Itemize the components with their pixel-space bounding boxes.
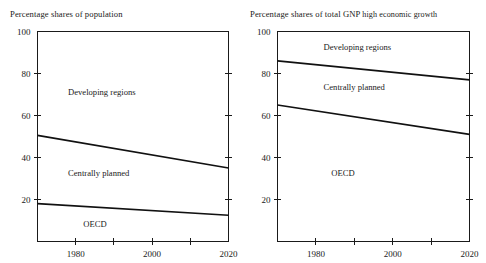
svg-text:60: 60: [22, 111, 32, 121]
svg-text:20: 20: [22, 195, 32, 205]
chart-svg-population: 20406080100198020002020Developing region…: [0, 0, 243, 263]
svg-text:40: 40: [22, 153, 32, 163]
svg-text:60: 60: [262, 111, 272, 121]
svg-text:OECD: OECD: [83, 219, 106, 229]
svg-text:40: 40: [262, 153, 272, 163]
svg-text:100: 100: [17, 27, 31, 37]
figure-container: Percentage shares of population 20406080…: [0, 0, 486, 263]
svg-text:2020: 2020: [461, 249, 480, 259]
svg-text:Centrally planned: Centrally planned: [68, 168, 130, 178]
svg-text:Developing regions: Developing regions: [324, 42, 392, 52]
svg-text:2000: 2000: [384, 249, 403, 259]
svg-text:100: 100: [257, 27, 271, 37]
svg-text:1980: 1980: [307, 249, 326, 259]
svg-text:Centrally planned: Centrally planned: [324, 82, 386, 92]
svg-text:OECD: OECD: [331, 168, 354, 178]
svg-text:2000: 2000: [143, 249, 162, 259]
chart-panel-gnp: Percentage shares of total GNP high econ…: [243, 0, 486, 263]
chart-svg-gnp: 20406080100198020002020Developing region…: [243, 0, 486, 263]
svg-text:1980: 1980: [67, 249, 86, 259]
svg-text:20: 20: [262, 195, 272, 205]
svg-text:80: 80: [22, 69, 32, 79]
svg-text:2020: 2020: [220, 249, 239, 259]
chart-panel-population: Percentage shares of population 20406080…: [0, 0, 243, 263]
svg-text:Developing regions: Developing regions: [68, 87, 136, 97]
svg-text:80: 80: [262, 69, 272, 79]
